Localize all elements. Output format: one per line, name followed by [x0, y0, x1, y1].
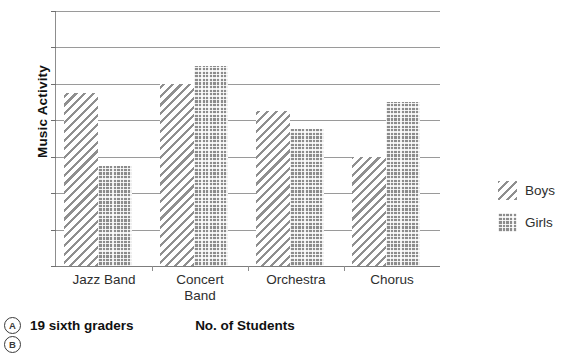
bar-group: [152, 11, 248, 266]
x-axis-tick-labels: Jazz BandConcertBandOrchestraChorus: [56, 272, 440, 314]
legend-item: Boys: [498, 176, 555, 204]
bar: [160, 84, 194, 266]
bar: [290, 129, 324, 266]
x-tick-label: Jazz Band: [56, 272, 152, 288]
bar: [194, 66, 228, 266]
bar: [352, 157, 386, 266]
x-tick-label-line: Orchestra: [248, 272, 344, 288]
x-axis-separator: [344, 266, 345, 271]
answer-text: 19 sixth graders: [30, 318, 134, 333]
bar: [64, 93, 98, 266]
answer-option[interactable]: A19 sixth graders: [4, 316, 194, 335]
answer-letter-badge: B: [4, 336, 21, 353]
x-tick-label: Chorus: [344, 272, 440, 288]
bar: [256, 111, 290, 266]
bar-groups: [56, 11, 440, 266]
answer-option[interactable]: B: [4, 335, 194, 354]
plot-area: 0481216202428: [56, 11, 440, 266]
bar-group: [56, 11, 152, 266]
x-axis-separator: [152, 266, 153, 271]
legend-label: Girls: [525, 215, 553, 230]
y-axis-title: Music Activity: [35, 32, 50, 192]
x-tick-label-line: Jazz Band: [56, 272, 152, 288]
legend-item: Girls: [498, 208, 555, 236]
bar: [98, 166, 132, 266]
y-tick-mark-0: [51, 266, 56, 267]
x-tick-label-line: Chorus: [344, 272, 440, 288]
x-tick-label: ConcertBand: [152, 272, 248, 304]
x-tick-label-line: Band: [152, 288, 248, 304]
x-tick-label: Orchestra: [248, 272, 344, 288]
x-tick-label-line: Concert: [152, 272, 248, 288]
answer-letter-badge: A: [4, 317, 21, 334]
dotted-grid-swatch: [498, 213, 517, 232]
diagonal-hatch-swatch: [498, 181, 517, 200]
legend-label: Boys: [525, 183, 555, 198]
bar: [386, 102, 420, 266]
bar-group: [248, 11, 344, 266]
x-axis-separator: [248, 266, 249, 271]
chart-legend: BoysGirls: [498, 176, 555, 240]
bar-group: [344, 11, 440, 266]
answer-options-list: A19 sixth gradersB: [4, 316, 194, 354]
